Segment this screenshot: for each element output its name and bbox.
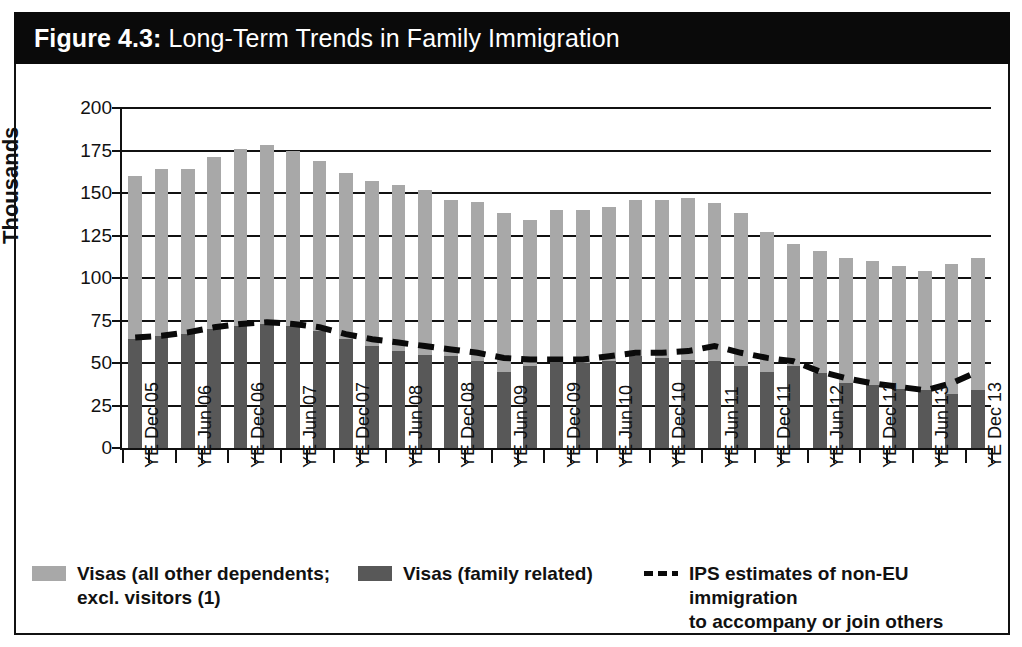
bar-visas-family-related (655, 358, 669, 448)
bar-visas-family-related (286, 326, 300, 448)
x-tick-mark (438, 450, 440, 463)
bar-slot (339, 108, 353, 448)
x-tick-mark (807, 450, 809, 463)
bar-slot (708, 108, 722, 448)
y-tick-label: 150 (50, 182, 112, 204)
legend-label-3-line1: IPS estimates of non-EU immigration (689, 563, 909, 608)
x-tick-label: YE Jun 13 (932, 385, 953, 468)
bar-slot (760, 108, 774, 448)
bar-visas-family-related (392, 351, 406, 448)
x-tick-mark (175, 450, 177, 463)
x-tick-label: YE Jun 06 (195, 385, 216, 468)
y-tick-label: 200 (50, 97, 112, 119)
x-tick-label: YE Dec 13 (985, 382, 1006, 468)
y-tick-mark (112, 150, 122, 152)
bar-visas-family-related (550, 363, 564, 448)
bar-visas-family-related (234, 326, 248, 448)
y-tick-mark (112, 320, 122, 322)
legend-label-2-line1: Visas (family related) (403, 563, 593, 584)
figure-title-bar: Figure 4.3: Long-Term Trends in Family I… (14, 12, 1010, 64)
x-tick-label: YE Jun 11 (722, 386, 743, 468)
bar-visas-family-related (444, 356, 458, 448)
bar-slot (866, 108, 880, 448)
y-tick-label: 75 (50, 310, 112, 332)
figure-page: Figure 4.3: Long-Term Trends in Family I… (0, 0, 1022, 647)
y-tick-mark (112, 362, 122, 364)
bar-slot (971, 108, 985, 448)
figure-number: Figure 4.3: (34, 24, 162, 52)
bar-visas-family-related (813, 373, 827, 448)
y-axis-label: Thousands (0, 127, 24, 244)
x-tick-mark (649, 450, 651, 463)
chart-legend: Visas (all other dependents; excl. visit… (32, 562, 996, 624)
x-tick-mark (754, 450, 756, 463)
bar-slot (234, 108, 248, 448)
bar-visas-family-related (339, 339, 353, 448)
legend-label-3: IPS estimates of non-EU immigration to a… (689, 562, 1004, 634)
legend-swatch-dashed-line (644, 566, 678, 581)
bar-visas-family-related (971, 390, 985, 448)
x-tick-mark (227, 450, 229, 463)
bar-slot (550, 108, 564, 448)
bar-slot (655, 108, 669, 448)
x-tick-label: YE Dec 06 (248, 382, 269, 468)
x-tick-label: YE Dec 12 (880, 382, 901, 468)
x-tick-label: YE Dec 05 (142, 382, 163, 468)
bar-visas-family-related (708, 361, 722, 448)
bar-slot (128, 108, 142, 448)
bar-visas-family-related (497, 372, 511, 449)
x-tick-mark (385, 450, 387, 463)
x-tick-mark (596, 450, 598, 463)
chart-frame: Thousands 0255075100125150175200 YE Dec … (14, 64, 1010, 635)
y-tick-mark (112, 107, 122, 109)
x-tick-label: YE Jun 10 (616, 385, 637, 468)
x-tick-mark (491, 450, 493, 463)
x-tick-label: YE Dec 10 (669, 382, 690, 468)
x-tick-mark (859, 450, 861, 463)
bar-visas-family-related (602, 361, 616, 448)
x-tick-mark (333, 450, 335, 463)
x-tick-mark (701, 450, 703, 463)
figure-title-text: Long-Term Trends in Family Immigration (162, 24, 620, 52)
y-tick-label: 0 (50, 437, 112, 459)
legend-item-visas-other-dependents: Visas (all other dependents; excl. visit… (32, 562, 332, 610)
y-tick-mark (112, 405, 122, 407)
legend-label-1-line1: Visas (all other dependents; (77, 563, 330, 584)
x-tick-mark (912, 450, 914, 463)
legend-item-ips-estimates: IPS estimates of non-EU immigration to a… (644, 562, 1004, 634)
x-tick-label: YE Dec 07 (353, 382, 374, 468)
y-tick-mark (112, 277, 122, 279)
x-tick-mark (280, 450, 282, 463)
y-tick-label: 25 (50, 395, 112, 417)
bar-visas-family-related (918, 390, 932, 448)
bar-visas-family-related (866, 385, 880, 448)
legend-label-1: Visas (all other dependents; excl. visit… (77, 562, 330, 610)
x-tick-label: YE Dec 09 (564, 382, 585, 468)
bar-visas-family-related (128, 339, 142, 448)
x-tick-mark (965, 450, 967, 463)
bar-slot (286, 108, 300, 448)
y-tick-mark (112, 447, 122, 449)
y-tick-label: 125 (50, 225, 112, 247)
legend-swatch-dark-bar (358, 566, 392, 581)
x-tick-label: YE Dec 11 (774, 383, 795, 468)
y-tick-mark (112, 192, 122, 194)
y-tick-label: 175 (50, 140, 112, 162)
legend-item-visas-family-related: Visas (family related) (358, 562, 618, 586)
plot-wrapper: Thousands 0255075100125150175200 YE Dec … (16, 64, 1012, 635)
y-tick-mark (112, 235, 122, 237)
bar-slot (392, 108, 406, 448)
x-tick-mark (543, 450, 545, 463)
page-title: Figure 4.3: Long-Term Trends in Family I… (14, 24, 620, 53)
x-tick-label: YE Jun 08 (406, 385, 427, 468)
legend-label-2: Visas (family related) (403, 562, 593, 586)
legend-label-1-line2: excl. visitors (1) (77, 587, 221, 608)
bar-visas-family-related (181, 334, 195, 448)
bar-slot (497, 108, 511, 448)
x-tick-mark (122, 450, 124, 463)
bar-slot (181, 108, 195, 448)
y-tick-label: 50 (50, 352, 112, 374)
x-tick-label: YE Dec 08 (458, 382, 479, 468)
x-tick-label: YE Jun 07 (300, 385, 321, 468)
bar-slot (918, 108, 932, 448)
